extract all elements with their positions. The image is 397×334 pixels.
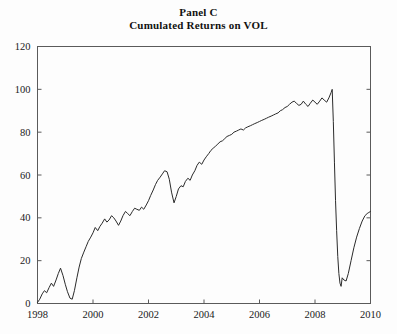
x-tick-label: 1998 — [27, 309, 48, 320]
y-tick-label: 0 — [25, 298, 30, 309]
x-tick-label: 2008 — [305, 309, 326, 320]
x-tick-label: 2000 — [83, 309, 104, 320]
x-axis-tick-labels: 1998200020022004200620082010 — [27, 309, 381, 320]
y-tick-label: 20 — [20, 255, 31, 266]
y-tick-label: 80 — [20, 127, 31, 138]
chart-figure: Panel C Cumulated Returns on VOL 0204060… — [0, 0, 397, 334]
x-tick-label: 2004 — [194, 309, 216, 320]
data-series-group — [38, 89, 371, 302]
series-line — [38, 89, 371, 302]
y-axis-ticks — [38, 47, 371, 304]
y-tick-label: 100 — [15, 84, 31, 95]
x-tick-label: 2002 — [138, 309, 159, 320]
y-tick-label: 60 — [20, 170, 31, 181]
y-axis-tick-labels: 020406080100120 — [15, 41, 31, 309]
chart-plot-area: 020406080100120 199820002002200420062008… — [0, 0, 397, 334]
x-tick-label: 2010 — [360, 309, 381, 320]
x-axis-ticks — [38, 300, 371, 304]
axis-frame — [38, 47, 371, 304]
y-tick-label: 120 — [15, 41, 31, 52]
y-tick-label: 40 — [20, 212, 31, 223]
x-tick-label: 2006 — [249, 309, 270, 320]
